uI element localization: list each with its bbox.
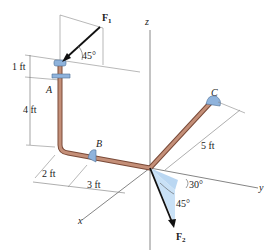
statics-diagram: z y x A B C F1 F2 45° 30° 45° 1 ft 4 ft …	[0, 0, 279, 251]
angle-f2-30-label: 30°	[189, 179, 203, 190]
force-f1-label: F1	[102, 12, 112, 25]
x-axis	[82, 168, 150, 220]
pipe	[60, 65, 213, 168]
dim-2ft: 2 ft	[42, 168, 56, 179]
y-axis-label: y	[258, 182, 264, 193]
dim-4ft: 4 ft	[23, 104, 37, 115]
point-a-label: A	[45, 84, 53, 95]
dim-5ft: 5 ft	[201, 140, 215, 151]
force-f2-label: F2	[176, 231, 186, 244]
dim-3ft: 3 ft	[87, 179, 101, 190]
dim-1ft: 1 ft	[12, 61, 26, 72]
point-b-label: B	[96, 138, 102, 149]
support-b	[88, 150, 96, 162]
z-axis-label: z	[144, 16, 149, 27]
support-a	[52, 74, 70, 78]
x-axis-label: x	[77, 215, 83, 226]
angle-f1-label: 45°	[82, 50, 96, 61]
angle-f2-45-label: 45°	[176, 198, 190, 209]
point-c-label: C	[211, 87, 218, 98]
